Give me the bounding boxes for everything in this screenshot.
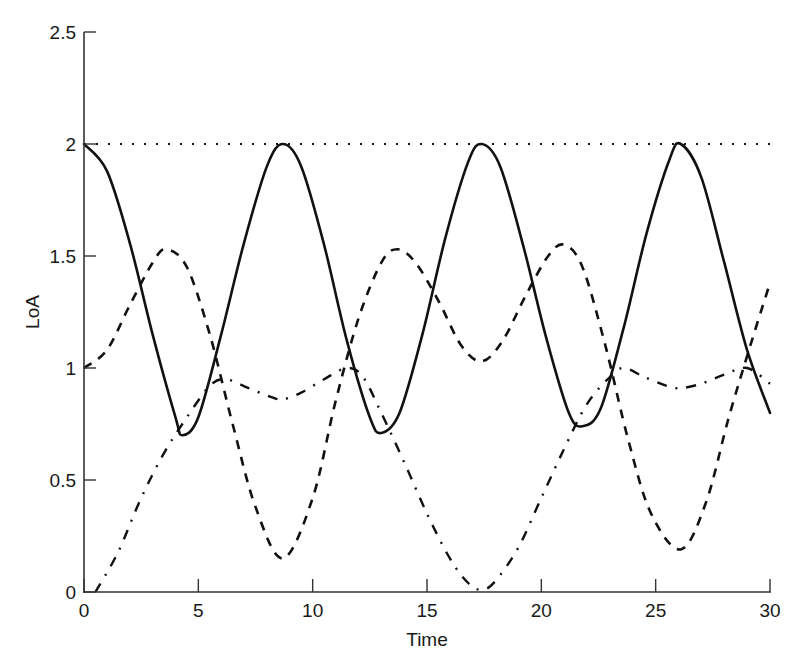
series-line-dashed [84,244,770,558]
y-tick-label: 0.5 [50,470,76,491]
x-ticks: 051015202530 [79,579,781,621]
y-tick-label: 1.5 [50,246,76,267]
x-tick-label: 15 [416,600,437,621]
y-tick-label: 0 [65,582,76,603]
line-chart: 00.511.522.5 051015202530 Time LoA [0,0,797,662]
y-axis-label: LoA [22,295,43,329]
plot-area [84,143,770,592]
axes: 00.511.522.5 051015202530 [50,22,781,621]
x-tick-label: 20 [531,600,552,621]
y-ticks: 00.511.522.5 [50,22,96,603]
x-tick-label: 10 [302,600,323,621]
x-tick-label: 5 [193,600,204,621]
series-line-dash-dot [95,368,770,592]
series-line-solid [84,143,770,435]
y-tick-label: 2 [65,134,76,155]
y-tick-label: 2.5 [50,22,76,43]
x-tick-label: 30 [759,600,780,621]
x-axis-label: Time [406,629,448,650]
y-tick-label: 1 [65,358,76,379]
x-tick-label: 25 [645,600,666,621]
x-tick-label: 0 [79,600,90,621]
